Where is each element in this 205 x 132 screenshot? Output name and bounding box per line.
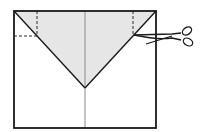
scissors-icon xyxy=(134,25,194,47)
folding-diagram xyxy=(0,0,205,132)
